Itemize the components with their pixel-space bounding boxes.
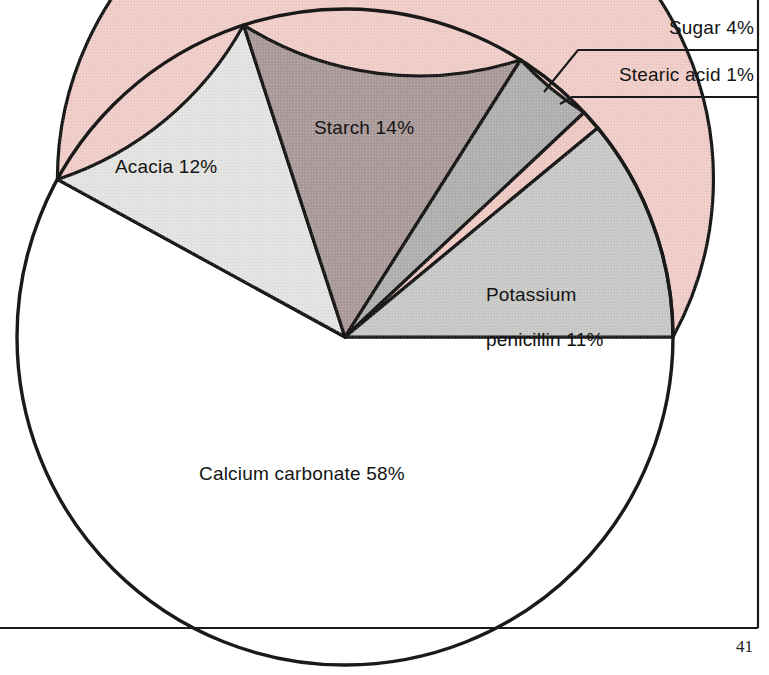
pie-chart-figure [0,0,769,675]
page-number: 41 [736,637,753,657]
figure-page: Starch 14% Acacia 12% Calcium carbonate … [0,0,769,675]
